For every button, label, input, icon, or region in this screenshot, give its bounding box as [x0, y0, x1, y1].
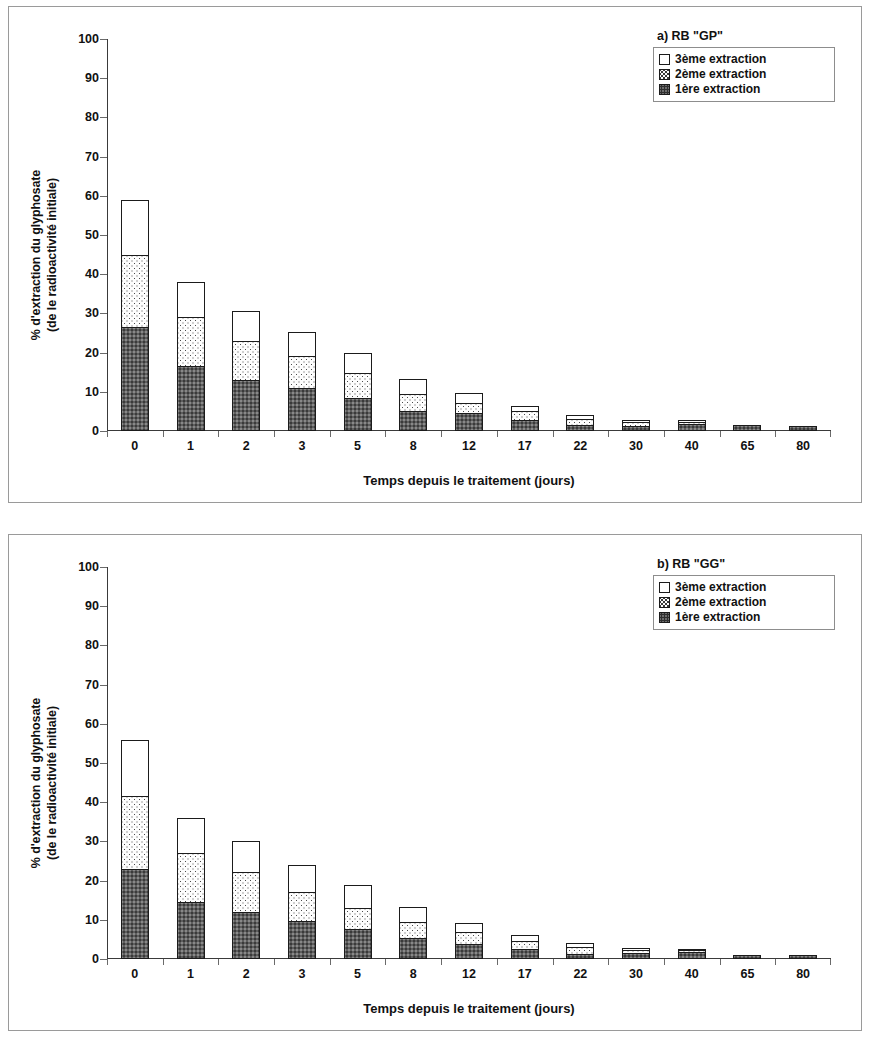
- bar-segment-s1[interactable]: [678, 424, 706, 431]
- stacked-bar[interactable]: [399, 907, 427, 960]
- stacked-bar[interactable]: [455, 393, 483, 431]
- bar-segment-s1[interactable]: [288, 388, 316, 431]
- bar-cell[interactable]: [107, 39, 163, 431]
- bar-cell[interactable]: [497, 39, 553, 431]
- bar-cell[interactable]: [330, 39, 386, 431]
- bar-cell[interactable]: [163, 39, 219, 431]
- bar-segment-s2[interactable]: [121, 796, 149, 869]
- bar-segment-s3[interactable]: [344, 353, 372, 373]
- bar-segment-s1[interactable]: [789, 426, 817, 431]
- bar-segment-s1[interactable]: [344, 929, 372, 959]
- stacked-bar[interactable]: [511, 935, 539, 959]
- bar-segment-s2[interactable]: [455, 932, 483, 944]
- bar-segment-s1[interactable]: [121, 327, 149, 431]
- bar-segment-s2[interactable]: [177, 853, 205, 902]
- bar-cell[interactable]: [385, 567, 441, 959]
- bar-segment-s2[interactable]: [399, 922, 427, 938]
- stacked-bar[interactable]: [455, 923, 483, 959]
- bar-cell[interactable]: [163, 567, 219, 959]
- bar-segment-s1[interactable]: [177, 366, 205, 431]
- stacked-bar[interactable]: [511, 406, 539, 431]
- bar-segment-s2[interactable]: [232, 341, 260, 380]
- stacked-bar[interactable]: [733, 425, 761, 431]
- stacked-bar[interactable]: [232, 311, 260, 431]
- stacked-bar[interactable]: [789, 426, 817, 431]
- bar-segment-s1[interactable]: [511, 420, 539, 431]
- bar-segment-s3[interactable]: [232, 311, 260, 341]
- bar-segment-s2[interactable]: [232, 872, 260, 912]
- stacked-bar[interactable]: [177, 818, 205, 959]
- bar-segment-s2[interactable]: [288, 892, 316, 920]
- bar-segment-s3[interactable]: [455, 923, 483, 932]
- bar-segment-s2[interactable]: [399, 394, 427, 411]
- bar-segment-s2[interactable]: [511, 411, 539, 420]
- bar-segment-s3[interactable]: [177, 282, 205, 317]
- bar-segment-s1[interactable]: [622, 953, 650, 959]
- bar-segment-s1[interactable]: [232, 912, 260, 959]
- legend-item[interactable]: 3ème extraction: [659, 580, 829, 594]
- bar-segment-s1[interactable]: [177, 902, 205, 959]
- bar-cell[interactable]: [330, 567, 386, 959]
- bar-cell[interactable]: [497, 567, 553, 959]
- stacked-bar[interactable]: [566, 415, 594, 431]
- bar-cell[interactable]: [218, 39, 274, 431]
- legend-item[interactable]: 1ère extraction: [659, 82, 829, 96]
- bar-cell[interactable]: [553, 39, 609, 431]
- bar-segment-s2[interactable]: [288, 356, 316, 388]
- stacked-bar[interactable]: [288, 865, 316, 959]
- stacked-bar[interactable]: [399, 379, 427, 431]
- stacked-bar[interactable]: [121, 740, 149, 960]
- bar-cell[interactable]: [218, 567, 274, 959]
- bar-segment-s1[interactable]: [455, 944, 483, 959]
- bar-segment-s2[interactable]: [455, 403, 483, 414]
- bar-segment-s1[interactable]: [733, 425, 761, 431]
- bar-segment-s1[interactable]: [399, 938, 427, 959]
- bar-segment-s1[interactable]: [733, 955, 761, 959]
- bar-segment-s3[interactable]: [288, 332, 316, 356]
- bar-cell[interactable]: [274, 39, 330, 431]
- bar-segment-s3[interactable]: [344, 885, 372, 909]
- bar-cell[interactable]: [274, 567, 330, 959]
- bar-segment-s3[interactable]: [455, 393, 483, 403]
- stacked-bar[interactable]: [733, 955, 761, 959]
- bar-segment-s2[interactable]: [344, 373, 372, 398]
- bar-segment-s1[interactable]: [344, 398, 372, 431]
- bar-segment-s2[interactable]: [511, 941, 539, 949]
- stacked-bar[interactable]: [622, 948, 650, 959]
- bar-segment-s1[interactable]: [678, 952, 706, 959]
- bar-segment-s2[interactable]: [344, 908, 372, 929]
- stacked-bar[interactable]: [678, 420, 706, 431]
- bar-segment-s1[interactable]: [566, 425, 594, 431]
- bar-cell[interactable]: [553, 567, 609, 959]
- stacked-bar[interactable]: [121, 200, 149, 431]
- bar-cell[interactable]: [441, 39, 497, 431]
- stacked-bar[interactable]: [789, 955, 817, 959]
- bar-segment-s1[interactable]: [232, 380, 260, 431]
- bar-segment-s1[interactable]: [288, 921, 316, 959]
- stacked-bar[interactable]: [177, 282, 205, 431]
- bar-segment-s3[interactable]: [232, 841, 260, 872]
- legend-item[interactable]: 2ème extraction: [659, 595, 829, 609]
- stacked-bar[interactable]: [566, 943, 594, 959]
- stacked-bar[interactable]: [622, 420, 650, 431]
- legend-item[interactable]: 3ème extraction: [659, 52, 829, 66]
- stacked-bar[interactable]: [344, 885, 372, 959]
- bar-segment-s3[interactable]: [399, 907, 427, 923]
- bar-segment-s3[interactable]: [177, 818, 205, 853]
- bar-segment-s2[interactable]: [121, 255, 149, 328]
- bar-segment-s1[interactable]: [121, 869, 149, 959]
- bar-segment-s1[interactable]: [399, 411, 427, 431]
- bar-cell[interactable]: [385, 39, 441, 431]
- bar-segment-s3[interactable]: [288, 865, 316, 892]
- bar-cell[interactable]: [441, 567, 497, 959]
- legend-item[interactable]: 1ère extraction: [659, 610, 829, 624]
- bar-segment-s2[interactable]: [177, 317, 205, 366]
- bar-segment-s3[interactable]: [121, 740, 149, 797]
- stacked-bar[interactable]: [232, 841, 260, 959]
- stacked-bar[interactable]: [678, 949, 706, 959]
- bar-segment-s3[interactable]: [121, 200, 149, 255]
- bar-cell[interactable]: [107, 567, 163, 959]
- bar-segment-s1[interactable]: [622, 426, 650, 431]
- bar-segment-s1[interactable]: [789, 955, 817, 959]
- bar-segment-s1[interactable]: [455, 413, 483, 431]
